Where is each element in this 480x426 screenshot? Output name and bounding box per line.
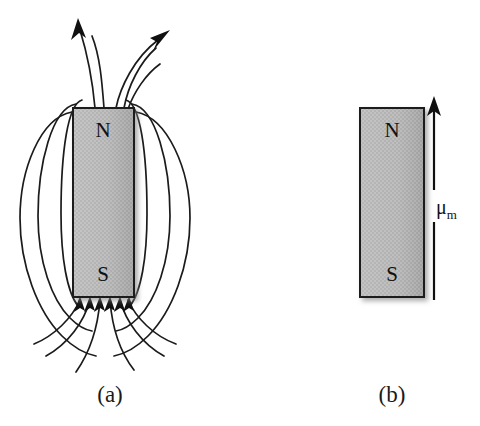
field-line-enter-3 bbox=[76, 300, 100, 372]
field-arrow-into-s-4 bbox=[104, 296, 115, 312]
field-line-exit-left bbox=[80, 30, 95, 108]
panel-caption-b: (b) bbox=[379, 382, 406, 407]
panel-caption-a: (a) bbox=[97, 382, 123, 407]
field-line-enter-4 bbox=[110, 300, 134, 370]
south-pole-label-b: S bbox=[386, 262, 398, 286]
magnetic-moment-label: μm bbox=[436, 196, 457, 222]
field-arrow-into-s-2 bbox=[84, 296, 95, 312]
magnet-field-diagram: N S (a) N S μm (b) bbox=[0, 0, 480, 426]
north-pole-label-b: N bbox=[384, 118, 399, 142]
north-pole-label-a: N bbox=[95, 118, 110, 142]
mu-subscript: m bbox=[447, 207, 457, 222]
field-arrow-into-s-5 bbox=[114, 296, 125, 312]
mu-symbol: μ bbox=[436, 196, 447, 219]
figure-container: N S (a) N S μm (b) bbox=[0, 0, 480, 426]
field-line-top-arc-c bbox=[128, 64, 160, 109]
south-pole-label-a: S bbox=[97, 262, 109, 286]
field-line-exit-right bbox=[116, 40, 158, 108]
panel-a: N S (a) bbox=[20, 18, 190, 407]
field-arrow-left-tip bbox=[71, 18, 86, 40]
panel-b: N S μm (b) bbox=[360, 96, 457, 407]
field-arrow-right-tip bbox=[150, 30, 170, 51]
